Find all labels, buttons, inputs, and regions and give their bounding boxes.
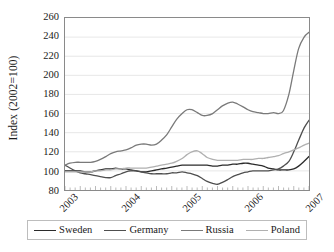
legend-item-russia[interactable]: Russia	[180, 225, 235, 236]
y-axis-tick-label: 140	[43, 128, 59, 139]
legend-item-poland[interactable]: Poland	[245, 225, 301, 236]
y-axis-tick-label: 200	[43, 70, 59, 81]
x-axis-tick-labels: 20032004200520062007	[64, 192, 310, 220]
legend-item-label: Russia	[206, 225, 234, 236]
plot-svg	[65, 18, 309, 190]
y-axis-tick-label: 80	[49, 186, 60, 197]
legend-item-label: Sweden	[59, 225, 92, 236]
plot-area	[64, 17, 310, 191]
y-axis-tick-label: 220	[43, 50, 59, 61]
legend-item-sweden[interactable]: Sweden	[33, 225, 93, 236]
y-axis-title-text: Index (2002=100)	[7, 55, 19, 140]
y-axis-tick-label: 160	[43, 108, 59, 119]
series-line-russia	[65, 32, 309, 165]
x-axis-tick-label: 2005	[181, 192, 203, 214]
legend-item-germany[interactable]: Germany	[103, 225, 169, 236]
chart-figure: Index (2002=100) 26024022020018016014012…	[0, 0, 334, 252]
x-axis-tick-marks	[65, 186, 309, 190]
legend-line-swatch-icon	[246, 230, 268, 231]
x-axis-tick-label: 2004	[120, 192, 142, 214]
y-axis-tick-label: 100	[43, 166, 59, 177]
legend-line-swatch-icon	[34, 230, 56, 231]
legend-line-swatch-icon	[104, 230, 126, 231]
legend-item-label: Poland	[271, 225, 300, 236]
chart-legend: SwedenGermanyRussiaPoland	[27, 220, 307, 240]
y-axis-tick-label: 180	[43, 89, 59, 100]
y-axis-tick-labels: 26024022020018016014012010080	[26, 11, 62, 191]
y-axis-title: Index (2002=100)	[0, 0, 26, 196]
y-axis-tick-label: 120	[43, 147, 59, 158]
x-axis-tick-label: 2007	[304, 192, 326, 214]
y-axis-tick-label: 260	[43, 12, 59, 23]
series-line-germany	[65, 120, 309, 184]
gridlines	[65, 37, 309, 171]
series-line-poland	[65, 143, 309, 172]
legend-item-label: Germany	[129, 225, 168, 236]
y-axis-tick-label: 240	[43, 31, 59, 42]
legend-line-swatch-icon	[181, 230, 203, 231]
x-axis-tick-label: 2003	[58, 192, 80, 214]
x-axis-tick-label: 2006	[243, 192, 265, 214]
series-lines	[65, 32, 309, 184]
